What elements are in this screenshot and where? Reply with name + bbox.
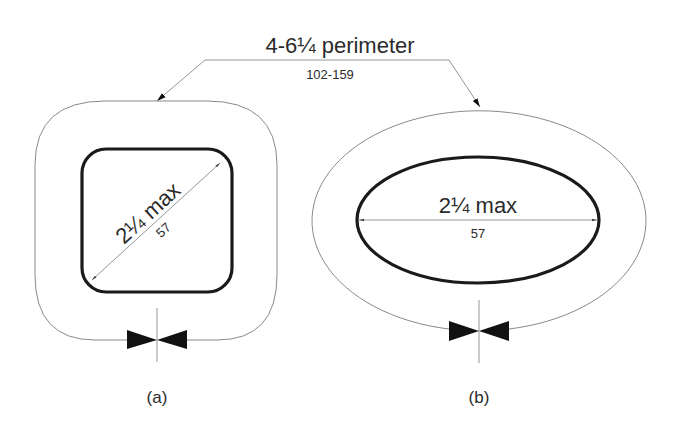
perimeter-label-imperial: 4-6¼ perimeter	[265, 33, 414, 58]
figure-a-caption: (a)	[147, 388, 168, 407]
figure-b-break-symbol-icon	[449, 300, 509, 363]
figure-a: 2¼ max 57 (a)	[35, 101, 277, 407]
figure-a-break-symbol-icon	[127, 308, 187, 362]
perimeter-label-metric: 102-159	[306, 67, 354, 82]
perimeter-callout: 4-6¼ perimeter 102-159	[157, 33, 480, 107]
figure-b-dimension-imperial: 2¼ max	[439, 193, 517, 218]
figure-a-dimension-metric: 57	[153, 220, 174, 241]
figure-b-dimension-metric: 57	[471, 226, 485, 241]
figure-b-caption: (b)	[469, 388, 490, 407]
handrail-cross-section-diagram: 4-6¼ perimeter 102-159 2¼ max 57 (a) 2¼ …	[0, 0, 677, 437]
figure-a-dimension-imperial: 2¼ max	[111, 177, 186, 248]
figure-b: 2¼ max 57 (b)	[312, 111, 646, 407]
